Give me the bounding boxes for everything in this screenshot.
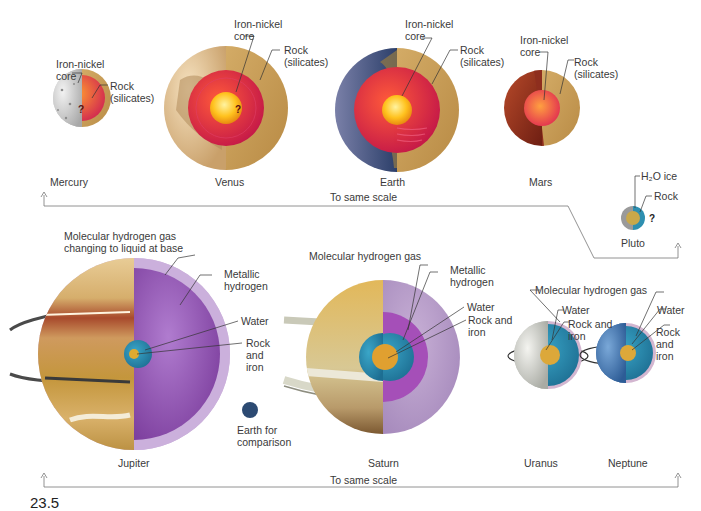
saturn-water-label: Water [467, 301, 495, 313]
neptune-name: Neptune [608, 457, 648, 469]
saturn-diagram [284, 265, 466, 440]
saturn-rock-iron-label: Rock and iron [468, 314, 512, 338]
earth-name: Earth [380, 176, 405, 188]
earth-core-label: Iron-nickel core [405, 18, 453, 42]
jupiter-metallic-hydrogen-label: Metallic hydrogen [224, 268, 268, 292]
uranus-name: Uranus [524, 457, 558, 469]
pluto-rock-label: Rock [654, 190, 678, 202]
pluto-name: Pluto [621, 237, 645, 249]
earth-rock-label: Rock (silicates) [460, 44, 504, 68]
uranus-water-label: Water [562, 304, 590, 316]
venus-name: Venus [215, 176, 244, 188]
figure-number: 23.5 [30, 494, 59, 511]
pluto-question-mark: ? [649, 213, 655, 224]
saturn-name: Saturn [368, 457, 399, 469]
mars-rock-label: Rock (silicates) [574, 56, 618, 80]
jupiter-water-label: Water [241, 315, 269, 327]
mars-name: Mars [529, 176, 552, 188]
venus-question-mark: ? [235, 104, 241, 115]
pluto-diagram [621, 176, 652, 230]
mercury-core-label: Iron-nickel core [56, 58, 104, 82]
terrestrial-scale-label: To same scale [330, 191, 397, 203]
uranus-rock-iron-label: Rock and iron [568, 318, 612, 342]
earth-comparison-label: Earth for comparison [237, 424, 291, 448]
jovian-scale-label: To same scale [330, 474, 397, 486]
mercury-question-mark: ? [78, 104, 84, 115]
pluto-ice-label: H₂O ice [641, 170, 677, 182]
saturn-metallic-hydrogen-label: Metallic hydrogen [450, 264, 494, 288]
jupiter-molecular-hydrogen-label: Molecular hydrogen gas changing to liqui… [64, 230, 183, 254]
mars-core-label: Iron-nickel core [520, 34, 568, 58]
molecular-hydrogen-shared-label: Molecular hydrogen gas [535, 284, 647, 296]
earth-comparison-dot [242, 402, 258, 418]
venus-diagram [164, 36, 288, 170]
jupiter-name: Jupiter [118, 457, 150, 469]
venus-core-label: Iron-nickel core [234, 18, 282, 42]
earth-diagram [335, 38, 459, 172]
jupiter-rock-iron-label: Rock and iron [246, 337, 270, 373]
jupiter-diagram [10, 255, 242, 458]
neptune-water-label: Water [657, 304, 685, 316]
neptune-rock-iron-label: Rock and iron [656, 326, 680, 362]
mars-diagram [504, 52, 582, 146]
mercury-name: Mercury [50, 176, 88, 188]
venus-rock-label: Rock (silicates) [284, 44, 328, 68]
mercury-rock-label: Rock (silicates) [110, 80, 154, 104]
saturn-molecular-hydrogen-label: Molecular hydrogen gas [309, 250, 421, 262]
